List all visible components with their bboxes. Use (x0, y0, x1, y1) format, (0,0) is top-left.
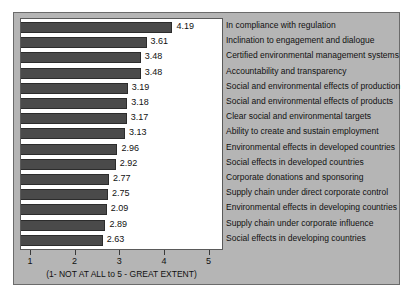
x-axis-tick-label: 4 (161, 256, 166, 266)
category-label: Environmental effects in developing coun… (226, 202, 397, 213)
bar-value-label: 2.09 (111, 203, 129, 214)
category-label: Social and environmental effects of prod… (226, 81, 400, 92)
bar (21, 83, 128, 94)
category-label: Corporate donations and sponsoring (226, 172, 364, 183)
category-label: Supply chain under direct corporate cont… (226, 187, 388, 198)
bar-row: 3.48 (21, 68, 222, 79)
bar-row: 3.17 (21, 113, 222, 124)
bar-row: 3.18 (21, 98, 222, 109)
bar (21, 113, 127, 124)
category-label: In compliance with regulation (226, 20, 336, 31)
bar-row: 3.61 (21, 37, 222, 48)
bar-value-label: 3.13 (129, 127, 147, 138)
bar-value-label: 2.89 (109, 219, 127, 230)
bar (21, 128, 125, 139)
x-axis-tick-mark (30, 250, 31, 255)
bar-value-label: 2.63 (107, 234, 125, 245)
bar-value-label: 2.92 (120, 158, 138, 169)
bar (21, 220, 105, 231)
bar (21, 174, 109, 185)
category-label: Supply chain under corporate influence (226, 218, 373, 229)
category-label: Social effects in developing countries (226, 233, 366, 244)
category-label: Certified environmental management syste… (226, 50, 399, 61)
category-label: Environmental effects in developed count… (226, 142, 395, 153)
x-axis: (1- NOT AT ALL to 5 - GREAT EXTENT) 1234… (20, 250, 223, 281)
bar (21, 98, 127, 109)
bar-row: 2.63 (21, 235, 222, 246)
bar (21, 159, 116, 170)
bar-value-label: 3.19 (132, 82, 150, 93)
x-axis-tick-label: 2 (72, 256, 77, 266)
x-axis-tick-label: 3 (117, 256, 122, 266)
bar (21, 144, 117, 155)
bar-value-label: 2.96 (121, 143, 139, 154)
bar-value-label: 2.77 (113, 173, 131, 184)
bar-row: 3.48 (21, 52, 222, 63)
bar (21, 37, 147, 48)
bar-value-label: 2.75 (112, 188, 130, 199)
bar (21, 204, 107, 215)
bar-value-label: 4.19 (176, 21, 194, 32)
category-label: Social and environmental effects of prod… (226, 96, 393, 107)
bar-row: 4.19 (21, 22, 222, 33)
bar-plot-area: 4.193.613.483.483.193.183.173.132.962.92… (20, 18, 223, 250)
category-label: Ability to create and sustain employment (226, 126, 379, 137)
bar-row: 2.89 (21, 220, 222, 231)
category-label: Clear social and environmental targets (226, 111, 371, 122)
bar-row: 2.96 (21, 144, 222, 155)
category-label: Inclination to engagement and dialogue (226, 35, 374, 46)
bar (21, 189, 108, 200)
x-axis-tick-mark (209, 250, 210, 255)
bar-row: 2.75 (21, 189, 222, 200)
bar-row: 2.77 (21, 174, 222, 185)
chart-figure: 4.193.613.483.483.193.183.173.132.962.92… (13, 12, 400, 285)
bar-value-label: 3.61 (151, 36, 169, 47)
x-axis-caption: (1- NOT AT ALL to 5 - GREAT EXTENT) (20, 269, 223, 279)
bar-value-label: 3.48 (145, 51, 163, 62)
x-axis-tick-mark (75, 250, 76, 255)
x-axis-tick-mark (119, 250, 120, 255)
bar-row: 3.13 (21, 128, 222, 139)
bar (21, 22, 172, 33)
category-label: Social effects in developed countries (226, 157, 364, 168)
category-label-panel: In compliance with regulationInclination… (226, 18, 396, 250)
x-axis-tick-label: 5 (206, 256, 211, 266)
category-label: Accountability and transparency (226, 66, 347, 77)
bar-value-label: 3.17 (131, 112, 149, 123)
bar (21, 52, 141, 63)
bar (21, 235, 103, 246)
bar-row: 2.09 (21, 204, 222, 215)
bar-value-label: 3.18 (131, 97, 149, 108)
bar-row: 3.19 (21, 83, 222, 94)
x-axis-tick-mark (164, 250, 165, 255)
x-axis-tick-label: 1 (27, 256, 32, 266)
bar (21, 68, 141, 79)
bar-value-label: 3.48 (145, 67, 163, 78)
bar-row: 2.92 (21, 159, 222, 170)
